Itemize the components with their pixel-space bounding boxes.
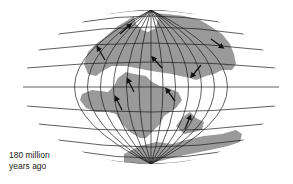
map-caption: 180 million years ago [9, 150, 50, 172]
caption-line-1: 180 million [9, 150, 50, 161]
caption-line-2: years ago [9, 161, 50, 172]
landmasses [80, 13, 242, 164]
landmass-gondwana-west [80, 72, 182, 138]
